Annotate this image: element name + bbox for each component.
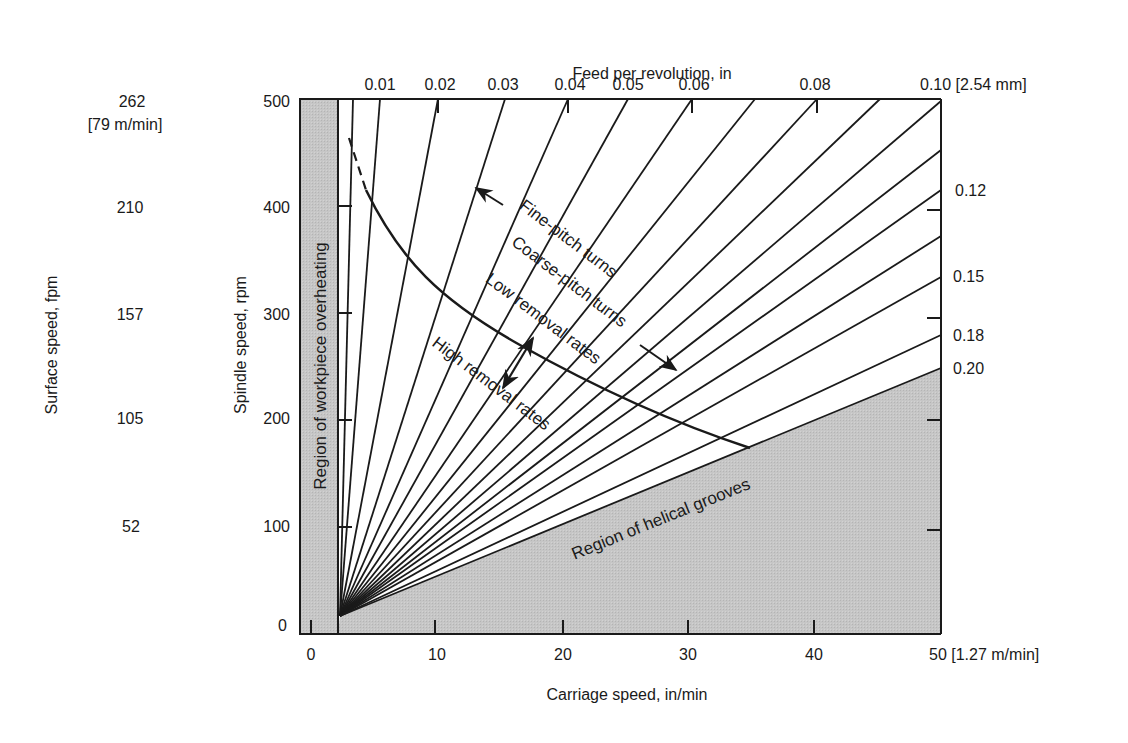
feed-0.10: 0.10 [2.54 mm] bbox=[920, 76, 1027, 93]
feed-0.20: 0.20 bbox=[953, 360, 984, 377]
fpm-210: 210 bbox=[117, 199, 144, 216]
feed-0.03: 0.03 bbox=[487, 76, 518, 93]
fpm-52: 52 bbox=[122, 518, 140, 535]
chart: Feed per revolution, in Carriage speed, … bbox=[0, 0, 1128, 743]
fpm-157: 157 bbox=[117, 306, 144, 323]
feed-0.01: 0.01 bbox=[364, 76, 395, 93]
rpm-500: 500 bbox=[263, 93, 290, 110]
overheating-label: Region of workpiece overheating bbox=[311, 242, 330, 490]
feed-0.04: 0.04 bbox=[554, 76, 585, 93]
feed-0.15: 0.15 bbox=[953, 268, 984, 285]
feed-0.05: 0.05 bbox=[612, 76, 643, 93]
fpm-262: 262 bbox=[119, 93, 146, 110]
bottom-axis-title: Carriage speed, in/min bbox=[547, 686, 708, 703]
feed-0.12: 0.12 bbox=[955, 182, 986, 199]
x-0: 0 bbox=[307, 646, 316, 663]
rpm-100: 100 bbox=[263, 518, 290, 535]
helical-grooves-region bbox=[338, 368, 941, 634]
x-50: 50 [1.27 m/min] bbox=[929, 646, 1039, 663]
rpm-300: 300 bbox=[263, 306, 290, 323]
x-40: 40 bbox=[805, 646, 823, 663]
feed-0.18: 0.18 bbox=[953, 327, 984, 344]
feed-0.06: 0.06 bbox=[678, 76, 709, 93]
rpm-400: 400 bbox=[263, 199, 290, 216]
x-30: 30 bbox=[679, 646, 697, 663]
high-removal-label: High removal rates bbox=[429, 333, 554, 434]
fpm-105: 105 bbox=[117, 410, 144, 427]
feed-0.08: 0.08 bbox=[799, 76, 830, 93]
feed-0.02: 0.02 bbox=[424, 76, 455, 93]
fine-pitch-arrow bbox=[476, 188, 503, 205]
x-10: 10 bbox=[428, 646, 446, 663]
x-20: 20 bbox=[554, 646, 572, 663]
rpm-200: 200 bbox=[263, 410, 290, 427]
rpm-0: 0 bbox=[278, 617, 287, 634]
far-left-axis-title: Surface speed, fpm bbox=[43, 276, 60, 415]
left-axis-title: Spindle speed, rpm bbox=[232, 276, 249, 414]
fpm-unit: [79 m/min] bbox=[88, 116, 163, 133]
coarse-pitch-arrow bbox=[640, 345, 676, 370]
